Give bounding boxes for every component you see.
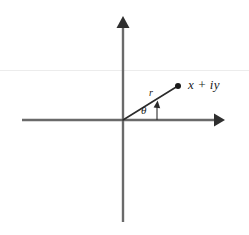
angle-arc-arrow (154, 101, 161, 121)
complex-plane-figure: x + iy r θ (0, 0, 249, 235)
radius-label: r (149, 88, 153, 98)
angle-arc-arrowhead (154, 101, 161, 109)
complex-point-label: x + iy (188, 78, 220, 91)
imaginary-axis-arrowhead (117, 16, 130, 28)
complex-point-marker (175, 83, 181, 89)
figure-canvas (0, 0, 249, 235)
real-axis-arrowhead (214, 114, 225, 127)
angle-label: θ (141, 105, 146, 116)
